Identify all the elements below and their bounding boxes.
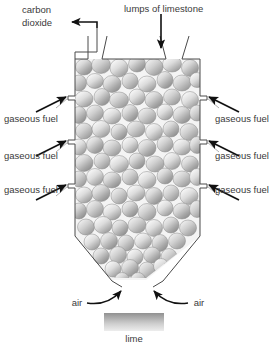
label-gaseous-fuel-left-3: gaseous fuel (4, 184, 58, 195)
label-gaseous-fuel-left-2: gaseous fuel (4, 150, 58, 161)
fuel-inlet-right-1 (207, 97, 239, 112)
fuel-inlet-left-1 (36, 97, 68, 112)
label-lime: lime (125, 333, 142, 344)
label-gaseous-fuel-right-2: gaseous fuel (215, 150, 269, 161)
air-inlet-right-arrow (154, 291, 188, 304)
label-gaseous-fuel-left-1: gaseous fuel (4, 113, 58, 124)
label-gaseous-fuel-right-1: gaseous fuel (215, 113, 269, 124)
label-gaseous-fuel-right-3: gaseous fuel (215, 184, 269, 195)
kiln-top-hopper (75, 28, 200, 59)
label-air-left: air (72, 297, 83, 308)
air-inlet-left-arrow (87, 291, 121, 304)
label-carbon-dioxide-line1: carbon (22, 4, 51, 15)
label-air-right: air (194, 297, 205, 308)
label-lumps-of-limestone: lumps of limestone (124, 3, 203, 14)
lime-kiln-diagram: carbon dioxide lumps of limestone gaseou… (0, 0, 277, 344)
label-carbon-dioxide-line2: dioxide (22, 17, 52, 28)
co2-outlet-arrow (72, 22, 97, 28)
lime-product-block (104, 313, 164, 331)
